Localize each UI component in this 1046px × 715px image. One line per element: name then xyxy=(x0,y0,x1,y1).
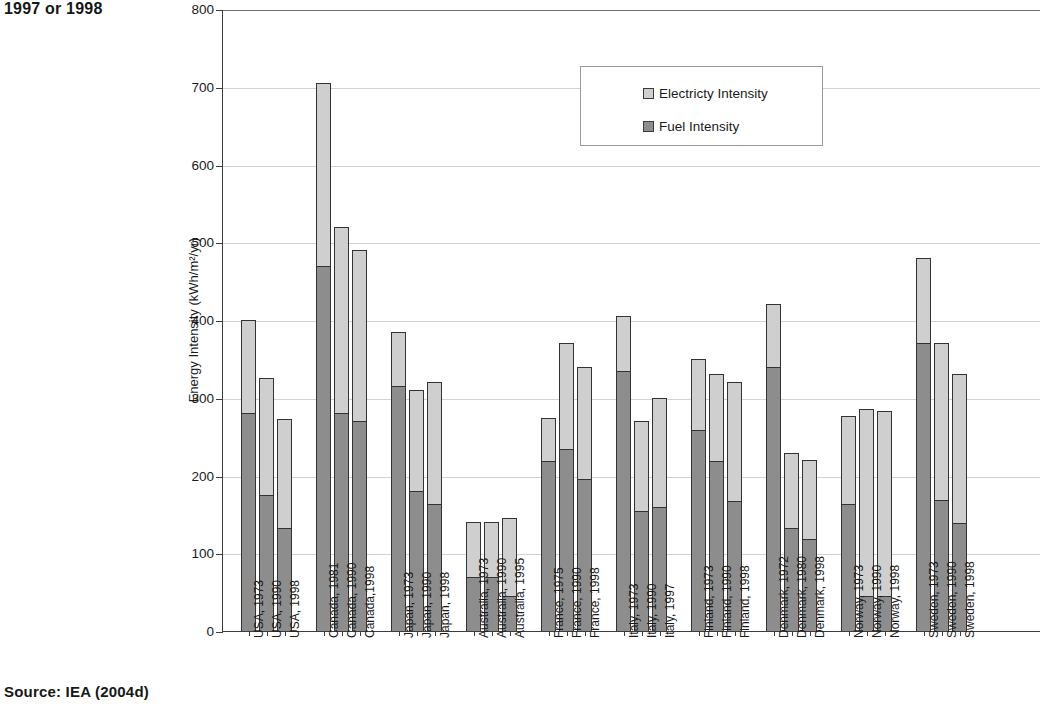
y-tick-label-0: 0 xyxy=(176,625,214,639)
x-tick-label: France, 1990 xyxy=(571,567,583,638)
x-tick-label: Canada, 1990 xyxy=(346,563,358,638)
x-tick-label: Canada,1998 xyxy=(364,566,376,638)
legend-entry-electricity: Electricty Intensity xyxy=(643,86,768,101)
x-tick-mark xyxy=(510,631,511,636)
x-tick-label: Japan, 1990 xyxy=(421,572,433,638)
x-tick-mark xyxy=(924,631,925,636)
x-tick-label: Canada, 1981 xyxy=(328,563,340,638)
x-tick-label: Australia, 1995 xyxy=(514,558,526,638)
x-tick-label: Australia, 1973 xyxy=(478,558,490,638)
bar-segment-electricity xyxy=(652,398,667,507)
y-tick-mark-0 xyxy=(216,632,223,633)
bar-segment-electricity xyxy=(784,453,799,528)
x-tick-mark xyxy=(699,631,700,636)
x-tick-label: Italy, 1990 xyxy=(646,584,658,638)
x-tick-mark xyxy=(717,631,718,636)
x-tick-mark xyxy=(549,631,550,636)
x-tick-label: Italy, 1973 xyxy=(628,584,640,638)
x-tick-mark xyxy=(585,631,586,636)
x-tick-mark xyxy=(435,631,436,636)
bar-segment-electricity xyxy=(541,418,556,461)
y-tick-label-200: 200 xyxy=(176,470,214,484)
x-tick-mark xyxy=(360,631,361,636)
y-tick-label-600: 600 xyxy=(176,159,214,173)
bar-segment-electricity xyxy=(259,378,274,495)
y-tick-label-500: 500 xyxy=(176,236,214,250)
legend-swatch-fuel-icon xyxy=(643,121,654,132)
x-tick-label: Norway, 1973 xyxy=(853,565,865,638)
x-tick-mark xyxy=(267,631,268,636)
source-note: Source: IEA (2004d) xyxy=(4,683,149,700)
x-tick-mark xyxy=(810,631,811,636)
bar-segment-electricity xyxy=(577,367,592,480)
bar-segment-electricity xyxy=(316,83,331,266)
legend-label-electricity: Electricty Intensity xyxy=(659,86,768,101)
legend-label-fuel: Fuel Intensity xyxy=(659,119,739,134)
x-tick-label: Sweden, 1973 xyxy=(928,561,940,638)
y-tick-label-400: 400 xyxy=(176,314,214,328)
legend-entry-fuel: Fuel Intensity xyxy=(643,119,739,134)
bar-segment-electricity xyxy=(352,250,367,421)
x-tick-label: Australia, 1990 xyxy=(496,558,508,638)
bar-segment-electricity xyxy=(691,359,706,430)
x-tick-label: Sweden, 1998 xyxy=(964,561,976,638)
bar-segment-electricity xyxy=(841,416,856,505)
x-tick-mark xyxy=(642,631,643,636)
y-tick-label-800: 800 xyxy=(176,3,214,17)
x-tick-label: Japan, 1998 xyxy=(439,572,451,638)
x-tick-label: Italy, 1997 xyxy=(664,584,676,638)
chart-legend: Electricty Intensity Fuel Intensity xyxy=(580,66,823,146)
x-tick-label: Finland, 1998 xyxy=(739,565,751,638)
x-tick-label: USA, 1973 xyxy=(253,580,265,638)
x-tick-mark xyxy=(960,631,961,636)
bar-segment-electricity xyxy=(934,343,949,500)
bar-segment-electricity xyxy=(277,419,292,528)
x-tick-mark xyxy=(249,631,250,636)
x-tick-label: Japan, 1973 xyxy=(403,572,415,638)
x-tick-mark xyxy=(774,631,775,636)
bar-segment-electricity xyxy=(427,382,442,504)
x-tick-mark xyxy=(474,631,475,636)
x-tick-label: Finland, 1990 xyxy=(721,565,733,638)
x-tick-mark xyxy=(417,631,418,636)
y-tick-label-100: 100 xyxy=(176,547,214,561)
x-tick-mark xyxy=(792,631,793,636)
bar-segment-electricity xyxy=(766,304,781,366)
bar-segment-electricity xyxy=(916,258,931,344)
x-tick-mark xyxy=(660,631,661,636)
bar-segment-electricity xyxy=(616,316,631,370)
x-tick-label: Denmark, 1980 xyxy=(796,556,808,638)
x-tick-mark xyxy=(849,631,850,636)
bar-segment-electricity xyxy=(391,332,406,386)
x-tick-label: Denmark, 1998 xyxy=(814,556,826,638)
x-tick-mark xyxy=(867,631,868,636)
x-tick-label: Norway, 1990 xyxy=(871,565,883,638)
x-tick-label: Denmark, 1972 xyxy=(778,556,790,638)
bar-segment-electricity xyxy=(241,320,256,413)
x-tick-mark xyxy=(735,631,736,636)
y-tick-label-700: 700 xyxy=(176,81,214,95)
x-tick-label: Norway, 1998 xyxy=(889,565,901,638)
x-tick-label: Sweden, 1990 xyxy=(946,561,958,638)
x-tick-mark xyxy=(942,631,943,636)
x-tick-label: USA, 1990 xyxy=(271,580,283,638)
x-tick-label: Finland, 1973 xyxy=(703,565,715,638)
legend-swatch-electricity-icon xyxy=(643,88,654,99)
bar-segment-electricity xyxy=(634,421,649,510)
y-tick-label-300: 300 xyxy=(176,392,214,406)
gridline-800 xyxy=(223,10,1040,11)
x-tick-mark xyxy=(399,631,400,636)
x-tick-label: France, 1998 xyxy=(589,567,601,638)
chart-page: 1997 or 1998 Energy Intensity (kWh/m²/yr… xyxy=(0,0,1046,715)
x-tick-mark xyxy=(342,631,343,636)
x-tick-label: USA, 1998 xyxy=(289,580,301,638)
caption-fragment: 1997 or 1998 xyxy=(4,0,102,18)
x-tick-mark xyxy=(285,631,286,636)
bar-segment-electricity xyxy=(334,227,349,414)
bar-segment-electricity xyxy=(559,343,574,449)
x-tick-mark xyxy=(492,631,493,636)
x-tick-mark xyxy=(624,631,625,636)
bar-segment-electricity xyxy=(409,390,424,491)
bar xyxy=(316,83,331,631)
bar-segment-electricity xyxy=(709,374,724,460)
